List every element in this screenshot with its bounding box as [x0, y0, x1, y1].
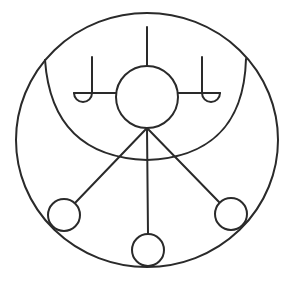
sigil-diagram: [0, 0, 294, 281]
small-circle-right: [215, 198, 247, 230]
center-circle: [116, 66, 178, 128]
spoke-left: [75, 128, 147, 203]
spoke-right: [147, 128, 219, 202]
spoke-bottom: [147, 128, 148, 234]
left-hook: [74, 57, 116, 102]
diagram-canvas: [0, 0, 294, 281]
small-circle-left: [48, 199, 80, 231]
small-circle-bottom: [132, 234, 164, 266]
right-hook: [178, 57, 220, 102]
inner-arc: [45, 59, 246, 160]
